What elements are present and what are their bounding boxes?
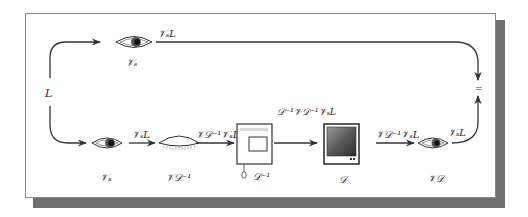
input-label: L	[44, 87, 52, 100]
display-observer-label: 𝒱𝒟	[428, 173, 446, 184]
pipeline-diagram: L 𝒱ₛ 𝒱ₛL = 𝒱ₛ 𝒱ₛL 𝒱𝒟⁻¹	[0, 0, 528, 217]
display-label: 𝒟	[339, 174, 349, 185]
closed-eye-icon	[159, 136, 199, 150]
eye-icon	[418, 138, 448, 148]
arrow-1-label: 𝒱ₛL	[132, 129, 150, 140]
arrow-2-label: 𝒱𝒟⁻¹𝒱ₛL	[196, 129, 240, 140]
arrow-3-label: 𝒟⁻¹𝒱𝒟⁻¹𝒱ₛL	[277, 106, 336, 117]
device-inverse-label: 𝒟⁻¹	[253, 171, 270, 182]
adaptation-label: 𝒱𝒟⁻¹	[166, 172, 191, 183]
top-branch-arrow	[50, 42, 100, 78]
top-output-label: 𝒱ₛL	[158, 28, 176, 39]
arrow-4-label: 𝒱𝒟⁻¹𝒱ₛL	[376, 129, 420, 140]
equality-symbol: =	[475, 84, 483, 94]
calibration-device-icon	[237, 124, 272, 178]
input-split-arrows	[50, 42, 100, 143]
arrow-5-label: 𝒱ₛL	[448, 127, 466, 138]
eye-icon	[92, 138, 122, 148]
top-observer-label: 𝒱ₛ	[126, 57, 138, 68]
display-monitor-icon	[324, 124, 359, 164]
bottom-observer-label: 𝒱ₛ	[100, 172, 112, 183]
top-output-arrow	[156, 42, 478, 80]
eye-icon	[116, 37, 152, 48]
bottom-branch-arrow	[50, 106, 86, 143]
